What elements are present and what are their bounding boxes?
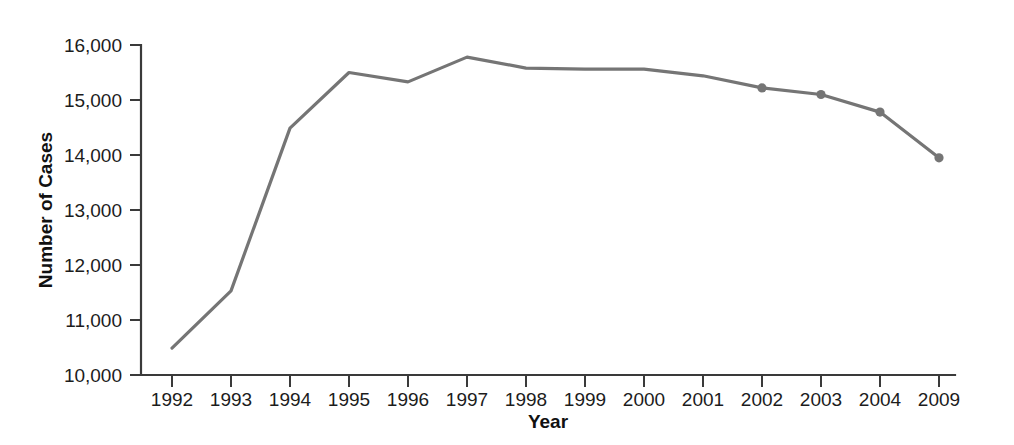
x-tick-label: 1995	[328, 389, 370, 410]
chart-container: 16,000 15,000 14,000 13,000 12,000 11,00…	[0, 0, 1014, 445]
y-tick-label: 14,000	[64, 145, 122, 166]
y-tick-label: 15,000	[64, 90, 122, 111]
y-tick-label: 10,000	[64, 365, 122, 386]
x-tick-label: 1997	[446, 389, 488, 410]
data-series-line	[172, 57, 939, 348]
x-tick-label: 2009	[918, 389, 960, 410]
x-tick-label: 2004	[859, 389, 902, 410]
line-chart: 16,000 15,000 14,000 13,000 12,000 11,00…	[0, 0, 1014, 445]
x-tick-label: 2000	[623, 389, 665, 410]
x-tick-label: 1994	[269, 389, 312, 410]
y-tick-label: 16,000	[64, 35, 122, 56]
data-point-markers	[757, 83, 943, 162]
x-tick-label: 2003	[800, 389, 842, 410]
x-tick-label: 1999	[564, 389, 606, 410]
x-tick-label: 2001	[682, 389, 724, 410]
y-axis-title: Number of Cases	[35, 132, 56, 288]
x-tick-label: 1993	[210, 389, 252, 410]
x-axis-ticks	[172, 375, 939, 387]
y-axis-tick-labels: 16,000 15,000 14,000 13,000 12,000 11,00…	[64, 35, 122, 386]
y-tick-label: 13,000	[64, 200, 122, 221]
data-point-marker	[757, 83, 766, 92]
x-tick-label: 1998	[505, 389, 547, 410]
y-axis-ticks	[130, 45, 141, 375]
data-point-marker	[816, 90, 825, 99]
x-tick-label: 1996	[387, 389, 429, 410]
x-tick-label: 1992	[151, 389, 193, 410]
x-axis-tick-labels: 1992199319941995199619971998199920002001…	[151, 389, 960, 410]
data-point-marker	[875, 108, 884, 117]
data-point-marker	[934, 153, 943, 162]
y-tick-label: 11,000	[65, 310, 122, 331]
x-axis-title: Year	[528, 411, 569, 432]
x-tick-label: 2002	[741, 389, 783, 410]
y-tick-label: 12,000	[64, 255, 122, 276]
